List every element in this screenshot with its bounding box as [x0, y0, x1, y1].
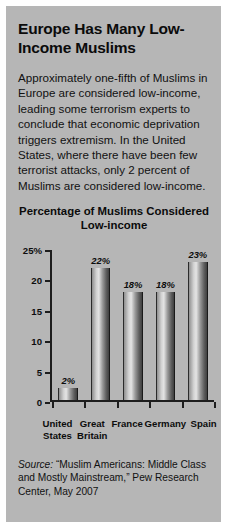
category-labels: United StatesGreat BritainFranceGermanyS…	[40, 418, 221, 441]
source-label: Source:	[18, 459, 53, 470]
x-axis	[50, 400, 214, 402]
category-label: Spain	[186, 418, 221, 441]
bar-series: 2%22%18%18%23%	[52, 250, 214, 400]
bar-value-label: 18%	[156, 279, 175, 290]
y-tick-mark	[45, 341, 50, 343]
source-note: Source: “Muslim Americans: Middle Class …	[18, 458, 214, 498]
x-tick-mark	[182, 402, 184, 408]
bar-value-label: 22%	[91, 255, 110, 266]
bar	[58, 388, 77, 400]
y-tick-mark	[45, 372, 50, 374]
bar-value-label: 2%	[61, 375, 75, 386]
bar-value-label: 18%	[124, 279, 143, 290]
y-tick-label: 15	[31, 305, 42, 316]
y-tick-label: 10	[31, 336, 42, 347]
x-tick-mark	[52, 402, 54, 408]
bar	[188, 262, 207, 400]
y-tick-label: 25%	[23, 245, 42, 256]
body-paragraph: Approximately one-fifth of Muslims in Eu…	[18, 70, 214, 193]
bar-slot: 22%	[84, 250, 116, 400]
x-tick-mark	[84, 402, 86, 408]
bar-slot: 2%	[52, 250, 84, 400]
x-tick-mark	[214, 402, 216, 408]
bar-value-label: 23%	[188, 249, 207, 260]
bar	[91, 268, 110, 400]
category-label: Germany	[145, 418, 187, 441]
y-tick-mark	[45, 280, 50, 282]
bar	[156, 292, 175, 400]
headline: Europe Has Many Low-Income Muslims	[18, 19, 210, 57]
bar-slot: 18%	[117, 250, 149, 400]
bar	[123, 292, 142, 400]
y-tick-label: 5	[37, 366, 42, 377]
x-tick-mark	[117, 402, 119, 408]
chart-title: Percentage of Muslims Considered Low-inc…	[18, 204, 210, 232]
infographic-panel: Europe Has Many Low-Income Muslims Appro…	[6, 6, 221, 522]
x-tick-mark	[149, 402, 151, 408]
y-tick-mark	[45, 250, 50, 252]
y-tick-mark	[45, 402, 50, 404]
category-label: France	[110, 418, 145, 441]
bar-chart: 0510152025% 2%22%18%18%23%	[18, 244, 214, 416]
y-tick-mark	[45, 311, 50, 313]
category-label: United States	[40, 418, 75, 441]
y-tick-label: 0	[37, 397, 42, 408]
y-tick-label: 20	[31, 275, 42, 286]
category-label: Great Britain	[75, 418, 110, 441]
bar-slot: 23%	[182, 250, 214, 400]
bar-slot: 18%	[149, 250, 181, 400]
